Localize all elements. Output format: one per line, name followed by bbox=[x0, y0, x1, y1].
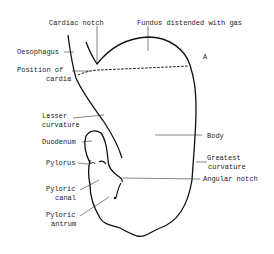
marker-a: A bbox=[203, 53, 207, 62]
duodenum-outline bbox=[85, 131, 122, 182]
label-pylorus: Pylorus bbox=[46, 159, 75, 168]
label-greatest-curvature-1: Greatest bbox=[207, 154, 241, 163]
label-cardiac-notch: Cardiac notch bbox=[49, 19, 104, 28]
leader-pylorus bbox=[78, 163, 88, 164]
label-body: Body bbox=[207, 132, 224, 141]
pyloric-antrum-line bbox=[116, 183, 121, 198]
label-fundus: Fundus distended with gas bbox=[137, 19, 242, 28]
pyloric-antrum-dot bbox=[114, 197, 116, 199]
oesophagus-lesser-curvature-outline bbox=[68, 35, 122, 158]
cardia-dashed-line bbox=[78, 66, 188, 75]
leader-pyloric-antrum bbox=[80, 197, 109, 216]
pylorus-inner-mark bbox=[90, 163, 95, 165]
label-lesser-curvature-2: curvature bbox=[42, 121, 80, 130]
label-greatest-curvature-2: curvature bbox=[208, 163, 246, 172]
leader-duodenum bbox=[82, 141, 92, 142]
label-pyloric-canal-2: canal bbox=[55, 194, 76, 203]
leader-angular-notch bbox=[123, 178, 200, 179]
label-lesser-curvature-1: Lesser bbox=[42, 112, 67, 121]
label-pyloric-antrum-1: Pyloric bbox=[46, 211, 75, 220]
label-pyloric-canal-1: Pyloric bbox=[46, 185, 75, 194]
label-duodenum: Duodenum bbox=[42, 138, 76, 147]
label-position-of-cardia-2: cardia bbox=[46, 75, 71, 84]
label-oesophagus: Oesophagus bbox=[17, 48, 59, 57]
label-position-of-cardia-1: Position of bbox=[17, 66, 63, 75]
pylorus-mark bbox=[99, 161, 106, 164]
label-pyloric-antrum-2: antrum bbox=[51, 220, 76, 229]
label-angular-notch: Angular notch bbox=[203, 175, 258, 184]
